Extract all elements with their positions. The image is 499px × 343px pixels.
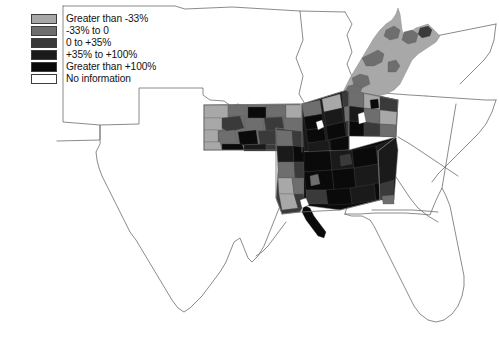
legend-item-gt-100: Greater than +100% [31,61,156,73]
state-west-virginia [344,8,440,96]
legend-swatch-gt-minus-33 [31,14,57,24]
legend-item-0-to-35: 0 to +35% [31,37,156,49]
legend-label-gt-100: Greater than +100% [66,62,156,72]
state-tennessee [349,90,398,137]
legend-label-35-to-100: +35% to +100% [66,50,137,60]
legend-label-gt-minus-33: Greater than -33% [66,14,148,24]
legend-swatch-gt-100 [31,62,57,72]
legend-label-0-to-35: 0 to +35% [66,38,111,48]
legend-swatch-35-to-100 [31,50,57,60]
legend-label-minus-33-to-0: -33% to 0 [66,26,109,36]
legend-item-minus-33-to-0: -33% to 0 [31,25,156,37]
legend-swatch-0-to-35 [31,38,57,48]
legend-item-35-to-100: +35% to +100% [31,49,156,61]
legend-item-no-information: No information [31,73,156,85]
map-figure: Greater than -33% -33% to 0 0 to +35% +3… [0,0,499,343]
legend-swatch-minus-33-to-0 [31,26,57,36]
state-arkansas [302,90,349,152]
legend-label-no-information: No information [66,74,131,84]
legend-swatch-no-information [31,74,57,84]
map-legend: Greater than -33% -33% to 0 0 to +35% +3… [31,13,156,85]
legend-item-gt-minus-33: Greater than -33% [31,13,156,25]
